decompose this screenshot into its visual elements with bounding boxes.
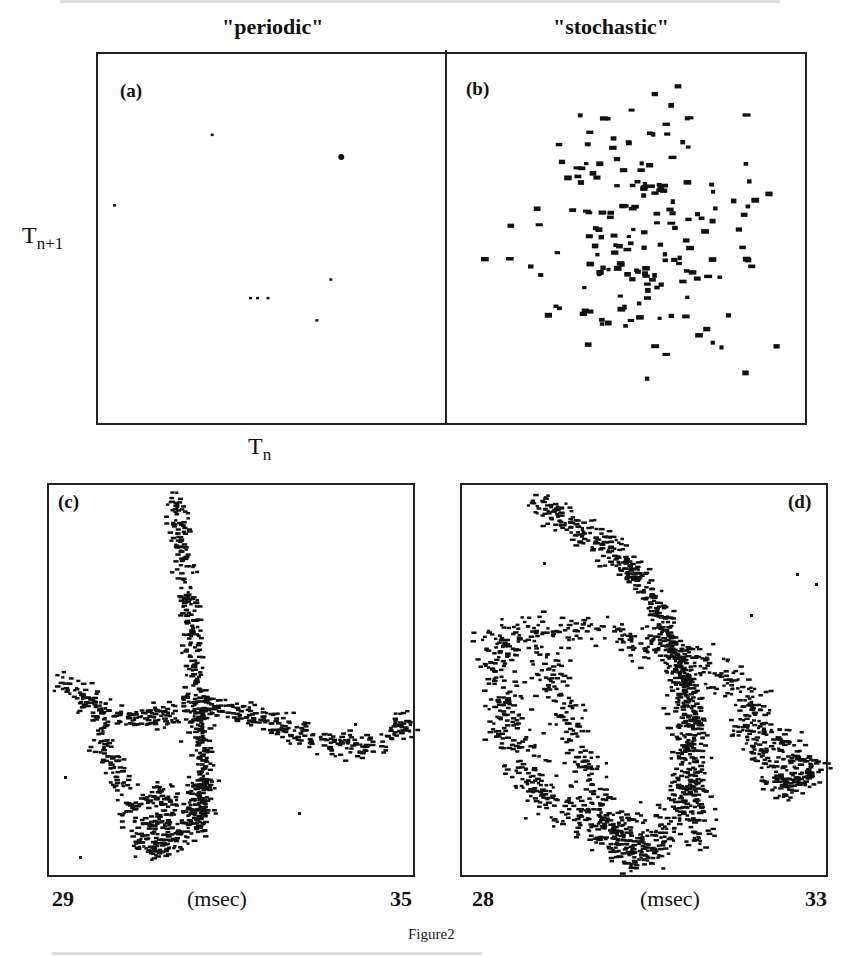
tick-d-unit: (msec) [640, 886, 700, 912]
panel-label-b: (b) [466, 78, 489, 100]
tick-c-unit: (msec) [187, 886, 247, 912]
top-panels-frame [0, 0, 851, 956]
tick-c-min: 29 [52, 886, 74, 912]
tick-d-min: 28 [472, 886, 494, 912]
scatter-points-c [53, 491, 420, 861]
figure-caption: Figure2 [408, 926, 455, 943]
panel-label-a: (a) [120, 80, 142, 102]
scatter-points-d [470, 494, 832, 875]
panel-label-c: (c) [58, 491, 79, 513]
scatter-points-a [113, 134, 344, 322]
panel-label-d: (d) [788, 491, 811, 513]
tick-d-max: 33 [805, 886, 827, 912]
tick-c-max: 35 [390, 886, 412, 912]
scatter-points-b [481, 84, 780, 381]
